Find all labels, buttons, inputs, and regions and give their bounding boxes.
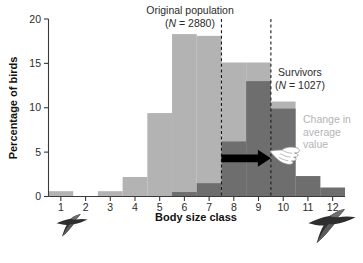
y-tick-label-20: 20 bbox=[29, 13, 41, 25]
bar-survivor-class-6 bbox=[172, 192, 197, 196]
bar-original-class-6 bbox=[172, 34, 197, 196]
survivors-label: Survivors (N = 1027) bbox=[275, 66, 325, 91]
x-tick-label-4: 4 bbox=[132, 201, 138, 213]
change-in-average-label: Change in average value bbox=[303, 113, 351, 150]
x-tick-label-3: 3 bbox=[107, 201, 113, 213]
y-tick-label-10: 10 bbox=[29, 101, 41, 113]
x-tick-label-2: 2 bbox=[83, 201, 89, 213]
op-value: = 2880) bbox=[176, 17, 215, 29]
change-label-line3: value bbox=[303, 138, 328, 150]
x-axis-title: Body size class bbox=[155, 211, 237, 223]
bar-original-class-3 bbox=[98, 191, 123, 196]
y-tick-label-15: 15 bbox=[29, 57, 41, 69]
bar-original-class-4 bbox=[123, 177, 148, 197]
bird-size-histogram-figure: 05101520 123456789101112 Body size class… bbox=[0, 0, 363, 263]
bar-survivor-class-7 bbox=[197, 183, 222, 196]
large-bird-icon bbox=[308, 209, 355, 243]
bar-original-class-1 bbox=[49, 191, 74, 196]
bar-survivor-class-12 bbox=[320, 188, 345, 197]
change-label-line2: average bbox=[303, 126, 341, 138]
y-axis-title: Percentage of birds bbox=[7, 57, 19, 160]
survivors-label-line2: (N = 1027) bbox=[275, 79, 325, 91]
y-tick-label-5: 5 bbox=[35, 146, 41, 158]
bar-survivor-class-11 bbox=[296, 176, 321, 196]
bars-original-population bbox=[49, 34, 346, 196]
x-tick-label-10: 10 bbox=[277, 201, 289, 213]
small-bird-icon bbox=[57, 214, 88, 237]
change-label-line1: Change in bbox=[303, 113, 351, 125]
chart-canvas: 05101520 123456789101112 Body size class… bbox=[0, 0, 363, 263]
bar-original-class-7 bbox=[197, 36, 222, 197]
x-tick-label-12: 12 bbox=[327, 201, 339, 213]
bar-survivor-class-8 bbox=[221, 141, 246, 196]
original-population-label-line2: (N = 2880) bbox=[165, 17, 215, 29]
bar-original-class-5 bbox=[147, 113, 172, 196]
y-axis-ticks: 05101520 bbox=[29, 13, 48, 203]
bar-survivor-class-9 bbox=[246, 81, 271, 196]
x-tick-label-11: 11 bbox=[302, 201, 313, 213]
x-tick-label-1: 1 bbox=[58, 201, 64, 213]
original-population-label-line1: Original population bbox=[146, 4, 234, 16]
x-tick-label-9: 9 bbox=[256, 201, 262, 213]
survivors-label-line1: Survivors bbox=[278, 66, 322, 78]
sv-value: = 1027) bbox=[286, 79, 325, 91]
y-tick-label-0: 0 bbox=[35, 190, 41, 202]
original-population-label: Original population (N = 2880) bbox=[146, 4, 234, 29]
